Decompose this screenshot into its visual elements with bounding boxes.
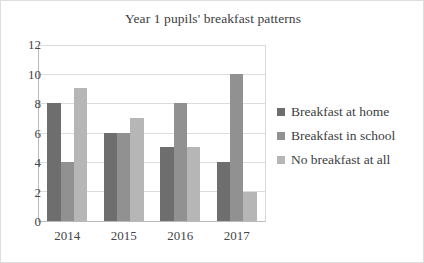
bar-chart-figure: Year 1 pupils' breakfast patterns 024681…: [0, 0, 424, 263]
bar-group: [47, 45, 87, 221]
x-axis-tick-label: 2014: [54, 228, 80, 244]
bar: [243, 192, 256, 222]
bar: [74, 88, 87, 221]
bar-group: [160, 45, 200, 221]
bar: [47, 103, 60, 221]
legend-entry[interactable]: Breakfast in school: [277, 125, 423, 147]
legend-swatch-icon: [277, 156, 285, 164]
y-axis-tick-label: 10: [5, 67, 41, 83]
bar: [160, 147, 173, 221]
bar: [117, 133, 130, 222]
chart-title: Year 1 pupils' breakfast patterns: [1, 11, 424, 27]
legend-label: Breakfast in school: [291, 129, 395, 143]
legend-entry[interactable]: No breakfast at all: [277, 149, 423, 171]
y-axis-tick-label: 4: [5, 155, 41, 171]
legend-swatch-icon: [277, 108, 285, 116]
bar: [104, 133, 117, 222]
y-axis-tick-label: 2: [5, 185, 41, 201]
bar: [61, 162, 74, 221]
bar-group: [104, 45, 144, 221]
legend-entry[interactable]: Breakfast at home: [277, 101, 423, 123]
x-axis-tick-label: 2017: [224, 228, 250, 244]
y-axis-tick-label: 0: [5, 214, 41, 230]
x-axis-tick-label: 2016: [167, 228, 193, 244]
bar: [230, 74, 243, 222]
bar: [130, 118, 143, 221]
y-axis-tick-label: 6: [5, 126, 41, 142]
y-axis-tick-label: 8: [5, 96, 41, 112]
bars-layer: [39, 45, 265, 221]
bar: [174, 103, 187, 221]
legend-label: No breakfast at all: [291, 153, 390, 167]
bar: [187, 147, 200, 221]
x-axis-tick-label: 2015: [111, 228, 137, 244]
bar-group: [217, 45, 257, 221]
legend-swatch-icon: [277, 132, 285, 140]
y-axis-tick-label: 12: [5, 37, 41, 53]
chart-legend: Breakfast at homeBreakfast in schoolNo b…: [277, 101, 423, 173]
legend-label: Breakfast at home: [291, 105, 389, 119]
bar: [217, 162, 230, 221]
